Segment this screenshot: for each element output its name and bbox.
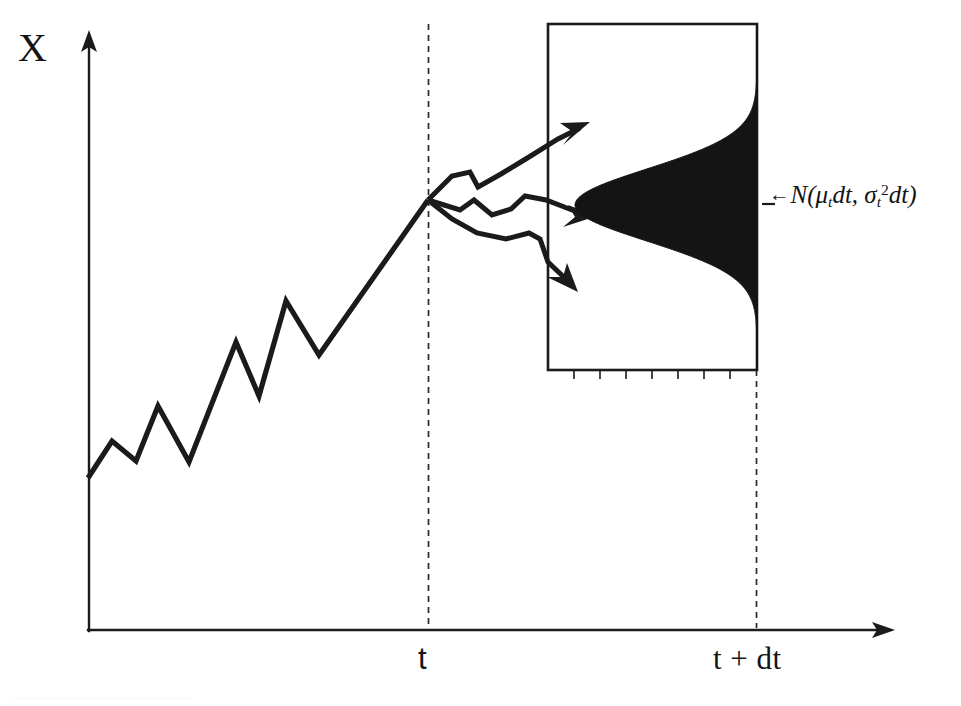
normal-distribution-shape	[575, 24, 757, 370]
left-arrow-icon: ←	[769, 183, 790, 205]
distribution-annotation-label: ←N(μtdt, σt2dt)	[769, 182, 917, 210]
y-axis-label: X	[18, 28, 47, 68]
scan-artifact	[14, 697, 190, 700]
annotation-separator: ,	[852, 181, 865, 208]
axes-group	[81, 30, 895, 638]
open-paren: (	[807, 181, 815, 208]
branch-up	[428, 122, 590, 200]
distribution-name: N	[791, 181, 808, 208]
mean-factor: dt	[832, 181, 851, 208]
sd-factor: dt	[889, 181, 908, 208]
mean-symbol: μ	[816, 181, 829, 208]
distribution-box-bottom-ticks	[574, 370, 730, 379]
random-walk-path	[88, 200, 428, 478]
ito-diagram-figure: X t t + dt ←N(μtdt, σt2dt)	[0, 0, 961, 706]
x-axis-tick-label-t: t	[418, 643, 427, 674]
branch-paths-group	[428, 122, 597, 292]
sd-symbol: σ	[864, 181, 876, 208]
diagram-canvas	[0, 0, 961, 706]
sd-exponent: 2	[881, 181, 889, 198]
x-axis-tick-label-t-plus-dt: t + dt	[713, 643, 782, 674]
close-paren: )	[908, 181, 916, 208]
guide-lines-group	[429, 24, 757, 628]
branch-middle-line	[428, 196, 586, 215]
branch-up-line	[428, 128, 580, 200]
